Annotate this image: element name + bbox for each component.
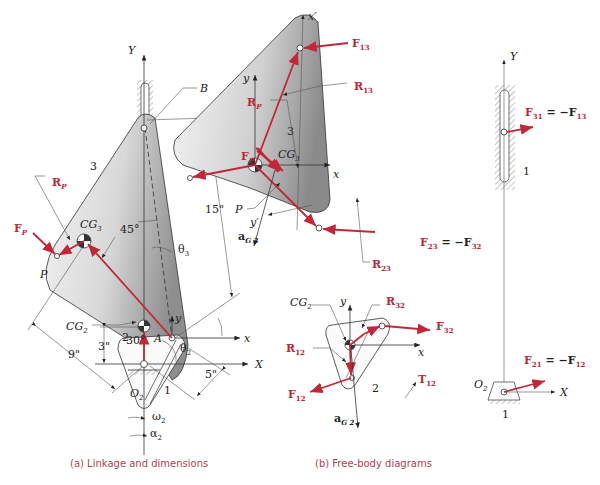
fbd-link-3: x′ y′ y x CG3 3 F13 R13 RP FP P (174, 10, 482, 273)
pin-B (141, 125, 147, 131)
RP-label: RP (52, 176, 67, 191)
caption-a: (a) Linkage and dimensions (70, 458, 208, 469)
label-B: B (199, 82, 208, 95)
link-3-label: 3 (90, 160, 97, 173)
link-3-fbd-body (174, 15, 330, 213)
F13-label: F13 (352, 37, 370, 52)
x-prime-label: x′ (308, 10, 317, 23)
cg2-symbol (138, 320, 150, 332)
aG3-label: aG 3 (238, 230, 259, 245)
alpha2-label: α2 (150, 427, 162, 442)
fbd2-x-label: x (418, 346, 425, 359)
theta2-label: θ2 (180, 342, 191, 357)
fbd1-O2-label: O2 (474, 378, 488, 393)
cg2-label: CG2 (66, 320, 88, 335)
fbd2-y-label: y (339, 295, 347, 308)
fbd1-Y-label: Y (510, 50, 519, 63)
F23-label: F23= −F32 (420, 236, 482, 251)
local-x-label: x (244, 332, 251, 345)
fbd1-X-label: X (559, 386, 569, 399)
Y-axis-label: Y (128, 44, 137, 57)
fbd-link-2: y x CG2 F32 R32 R12 F12 2 T12 aG 2 (b) F… (286, 295, 454, 469)
fbd-ground: Y F31= −F13 1 X F21= −F12 O2 1 (474, 50, 587, 421)
angle-45-label: 45° (120, 223, 140, 236)
y-prime-label: y′ (249, 216, 259, 229)
dim-5-label: 5" (205, 368, 217, 381)
X-axis-label: X (254, 358, 264, 371)
dim-9-label: 9" (68, 348, 80, 361)
ground-hatch (128, 370, 160, 375)
dim-3-label: 3" (98, 340, 110, 353)
F32-label: F32 (436, 320, 454, 335)
fbd2-link-label: 2 (372, 382, 379, 395)
fbd1-link-label: 1 (523, 165, 530, 178)
FP-label: FP (14, 222, 28, 237)
local-y-label: y (174, 312, 182, 325)
fbd3-x-label: x (333, 168, 340, 181)
ground-label: 1 (164, 384, 171, 397)
fbd2-cg-label: CG2 (290, 296, 312, 311)
aG2-label: aG 2 (334, 412, 355, 427)
fbd3-P-label: P (234, 203, 243, 216)
fbd3-y-label: y (242, 72, 250, 85)
fbd1-ground-label: 1 (502, 408, 509, 421)
angle-30-label: 30° (126, 334, 146, 347)
caption-b: (b) Free-body diagrams (315, 458, 432, 469)
R13-label: R13 (354, 80, 373, 95)
dim-15-label: 15" (205, 203, 224, 216)
F21-label: F21= −F12 (524, 354, 586, 369)
R12-label: R12 (286, 342, 305, 357)
F12-label: F12 (288, 388, 306, 403)
label-A: A (153, 332, 162, 345)
pin-O2 (141, 361, 148, 368)
F31-label: F31= −F13 (525, 106, 587, 121)
theta3-label: θ3 (178, 243, 189, 258)
figure-canvas: Y X B 15" θ3 x y A 2 3 (0, 0, 600, 485)
label-P: P (39, 268, 48, 281)
R32-label: R32 (386, 295, 405, 310)
R23-label: R23 (372, 258, 391, 273)
omega2-label: ω2 (152, 410, 165, 425)
T12-label: T12 (418, 373, 436, 388)
